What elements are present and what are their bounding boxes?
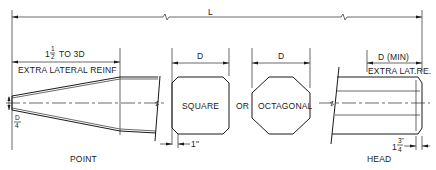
head-chamfer-den: 4: [398, 146, 402, 153]
length-label: L: [208, 7, 213, 17]
arrow-up-icon: [8, 96, 11, 101]
arrow-right-icon: [223, 62, 229, 65]
break-line: [155, 76, 160, 141]
arrow-left-icon: [12, 16, 18, 19]
tip-dim-num: D: [15, 114, 20, 121]
arrow-right-icon: [410, 145, 416, 148]
taper-bottom-inner: [12, 108, 120, 129]
pile-drawing: L 1 1 2 TO 3D EXTRA LATERAL REINF D 4: [0, 0, 436, 170]
point-reinf-frac-num: 1: [51, 45, 55, 52]
arrow-right-icon: [416, 16, 422, 19]
arrow-left-icon: [422, 145, 428, 148]
overall-length-dimension: L: [12, 7, 422, 150]
head-caption: HEAD: [367, 154, 391, 164]
octagonal-section: D OCTAGONAL: [252, 48, 313, 134]
octagonal-label: OCTAGONAL: [258, 101, 313, 111]
chamfer-dim-label: 1": [191, 139, 199, 149]
arrow-right-icon: [416, 62, 422, 65]
break-mark-icon: [330, 101, 334, 106]
tip-dim-den: 4: [15, 122, 19, 129]
arrow-left-icon: [367, 62, 373, 65]
head-dim-label: D (MIN): [378, 52, 409, 62]
square-label: SQUARE: [182, 101, 219, 111]
octagon-dim-label: D: [278, 51, 284, 61]
break-mark-icon: [341, 14, 347, 20]
taper-top-outer: [12, 77, 120, 96]
square-section: D SQUARE 1": [160, 48, 229, 149]
shaft-bottom-outer: [120, 131, 156, 133]
taper-bottom-outer: [12, 110, 120, 131]
pile-point: D 4 POINT: [6, 76, 166, 164]
point-reinf-rest: TO 3D: [59, 49, 85, 59]
taper-top-inner: [12, 79, 120, 98]
square-dim-label: D: [197, 51, 203, 61]
break-mark-icon: [163, 14, 169, 20]
head-chamfer-num: 3": [398, 137, 405, 144]
or-label: OR: [236, 101, 249, 111]
arrow-right-icon: [166, 143, 172, 146]
point-reinf-note: EXTRA LATERAL REINF: [18, 65, 117, 75]
shaft-bottom-inner: [120, 129, 156, 131]
point-reinf-dimension: 1 1 2 TO 3D EXTRA LATERAL REINF: [12, 45, 120, 135]
head-chamfer-whole: 1: [392, 142, 397, 152]
arrow-right-icon: [304, 62, 310, 65]
arrow-right-icon: [114, 61, 120, 64]
arrow-left-icon: [12, 61, 18, 64]
arrow-down-icon: [8, 105, 11, 110]
head-reinf-note: EXTRA LAT.RE.: [368, 66, 431, 76]
arrow-left-icon: [178, 143, 184, 146]
pile-head: D (MIN) EXTRA LAT.RE. 1 3" 4 HEAD: [319, 50, 431, 164]
head-end: [418, 77, 422, 134]
arrow-left-icon: [252, 62, 258, 65]
point-reinf-whole: 1: [45, 49, 50, 59]
point-reinf-frac-den: 2: [51, 53, 55, 60]
point-caption: POINT: [70, 154, 97, 164]
arrow-left-icon: [172, 62, 178, 65]
